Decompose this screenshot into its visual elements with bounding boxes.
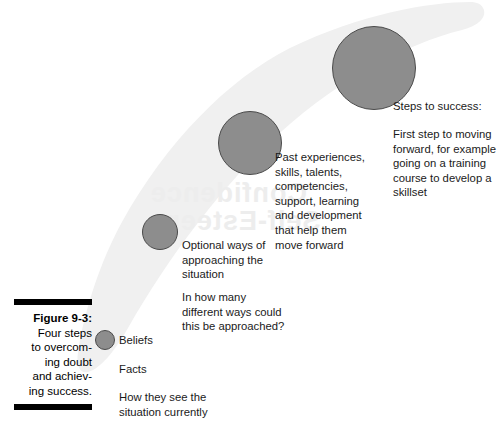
caption-line-4: and achiev- — [14, 369, 92, 384]
step-circle-resources — [218, 111, 282, 175]
caption-line-3: ing doubt — [14, 355, 92, 370]
annotation-resources-label: Past experiences, skills, talents, compe… — [275, 150, 365, 252]
figure-container: Confidence Self-Esteem Beliefs Facts How… — [0, 0, 502, 432]
step-circle-options — [142, 214, 178, 250]
caption-text: Figure 9-3: Four steps to overcom- ing d… — [14, 305, 92, 404]
annotation-success-label: Steps to success: — [393, 99, 482, 114]
caption-line-1: Four steps — [14, 326, 92, 341]
step-circle-success — [332, 26, 416, 110]
figure-caption: Figure 9-3: Four steps to overcom- ing d… — [14, 299, 92, 410]
annotation-facts-label: Facts — [119, 362, 147, 377]
caption-figure-number: Figure 9-3: — [14, 311, 92, 326]
annotation-success-question: First step to moving forward, for exampl… — [393, 127, 496, 200]
annotation-options-label: Optional ways of approaching the situati… — [182, 238, 266, 282]
step-circle-beliefs — [95, 330, 115, 350]
annotation-options-question: In how many different ways could this be… — [182, 290, 284, 334]
annotation-beliefs-question: How they see the situation currently — [119, 390, 208, 419]
annotation-beliefs-label: Beliefs — [119, 333, 153, 348]
caption-line-5: ing success. — [14, 384, 92, 399]
caption-rule-bottom — [14, 404, 92, 410]
caption-line-2: to overcom- — [14, 340, 92, 355]
